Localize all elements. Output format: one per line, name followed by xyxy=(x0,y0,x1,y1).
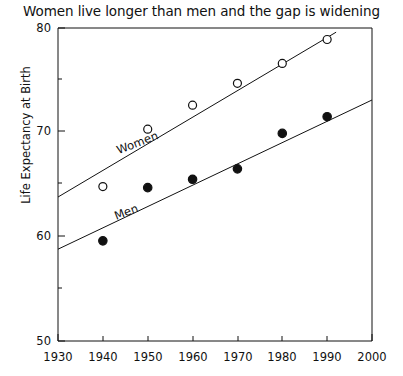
data-point xyxy=(323,112,331,120)
data-point xyxy=(99,183,107,191)
x-tick-label-1960: 1960 xyxy=(178,350,207,364)
y-tick-label-80: 80 xyxy=(36,21,51,35)
x-tick-label-1980: 1980 xyxy=(267,350,296,364)
data-point xyxy=(323,35,331,43)
data-point xyxy=(233,79,241,87)
data-point xyxy=(188,175,196,183)
series-label-men: Men xyxy=(112,201,140,223)
x-tick-label-1930: 1930 xyxy=(43,350,72,364)
data-series-men xyxy=(99,112,332,245)
data-point xyxy=(189,101,197,109)
x-axis-ticks xyxy=(58,334,372,341)
data-series-women xyxy=(99,35,331,190)
y-tick-label-50: 50 xyxy=(36,334,51,348)
plot-area: 80 70 60 50 1930 1940 1950 1960 1970 198… xyxy=(0,0,403,376)
y-tick-label-70: 70 xyxy=(36,124,51,138)
trendline-women xyxy=(58,32,336,197)
x-tick-label-2000: 2000 xyxy=(357,350,386,364)
y-tick-label-60: 60 xyxy=(36,229,51,243)
x-tick-label-1970: 1970 xyxy=(223,350,252,364)
data-point xyxy=(278,59,286,67)
x-tick-label-1990: 1990 xyxy=(312,350,341,364)
series-label-women: Women xyxy=(115,128,160,157)
data-point xyxy=(144,183,152,191)
data-point xyxy=(99,237,107,245)
data-point xyxy=(233,165,241,173)
data-point xyxy=(278,129,286,137)
trendline-men xyxy=(58,100,372,249)
chart-container: Women live longer than men and the gap i… xyxy=(0,0,403,376)
x-tick-label-1940: 1940 xyxy=(88,350,117,364)
y-axis-ticks xyxy=(58,28,65,341)
x-tick-label-1950: 1950 xyxy=(133,350,162,364)
